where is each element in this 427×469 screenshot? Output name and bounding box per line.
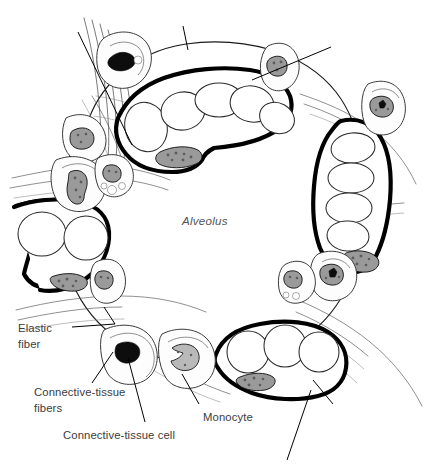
- cell-right-lower: [310, 251, 356, 301]
- monocyte: [159, 329, 216, 388]
- label-connective-tissue-fibers-line1: Connective-tissue: [34, 386, 126, 398]
- label-connective-tissue-fibers: Connective-tissuefibers: [34, 385, 126, 416]
- capillary-right: [313, 120, 390, 273]
- label-monocyte-line1: Monocyte: [203, 411, 253, 423]
- label-elastic-fiber: Elasticfiber: [18, 321, 52, 352]
- connective-tissue-cell: [101, 325, 158, 384]
- capillary-bottom-right: [215, 322, 347, 400]
- cell-top-right: [260, 43, 299, 91]
- label-connective-tissue-cell: Connective-tissue cell: [63, 428, 175, 444]
- cell-right-upper: [362, 81, 406, 135]
- label-connective-tissue-cell-line1: Connective-tissue cell: [63, 429, 175, 441]
- label-elastic-fiber-line1: Elastic: [18, 322, 52, 334]
- cell-left-granular: [95, 155, 133, 197]
- label-connective-tissue-fibers-line2: fibers: [34, 402, 62, 414]
- label-elastic-fiber-line2: fiber: [18, 338, 40, 350]
- lumen-label-alveolus: Alveolus: [182, 214, 228, 227]
- cell-right-granular: [278, 261, 315, 303]
- label-monocyte: Monocyte: [203, 410, 253, 426]
- cell-lower-left-septum: [90, 259, 125, 303]
